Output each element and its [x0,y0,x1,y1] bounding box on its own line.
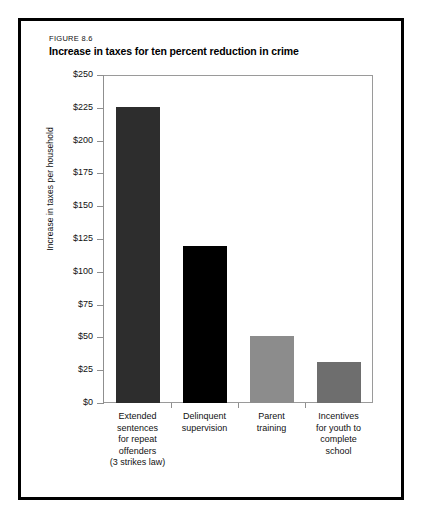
y-tick-label: $25 [78,364,93,375]
x-label-line: sentences [104,423,171,435]
y-tick-mark [97,108,103,109]
y-tick-mark [97,141,103,142]
x-axis-category-label: Incentivesfor youth tocompleteschool [305,411,372,457]
y-tick-mark [97,75,103,76]
x-label-line: Extended [104,411,171,423]
bar-slot [104,75,171,403]
x-axis-category-label: Extendedsentencesfor repeatoffenders(3 s… [104,411,171,469]
x-label-line: school [305,446,372,458]
x-tick-mark [305,403,306,408]
x-label-line: complete [305,434,372,446]
x-tick-mark [171,403,172,408]
x-axis-category-label: Parenttraining [238,411,305,434]
y-tick-mark [97,239,103,240]
y-tick-mark [97,206,103,207]
bar-slot [171,75,238,403]
y-tick-label: $225 [73,102,93,113]
y-tick-label: $125 [73,233,93,244]
x-label-line: Delinquent [171,411,238,423]
x-axis-labels: Extendedsentencesfor repeatoffenders(3 s… [104,411,372,497]
y-tick-label: $100 [73,266,93,277]
y-tick-mark [97,337,103,338]
bar[interactable] [183,246,227,403]
bars-layer [104,75,372,403]
bar-slot [238,75,305,403]
bar-slot [305,75,372,403]
x-label-line: for repeat [104,434,171,446]
y-tick-mark [97,272,103,273]
x-label-line: Parent [238,411,305,423]
y-tick-label: $0 [83,397,93,408]
x-label-line: (3 strikes law) [104,457,171,469]
y-tick-label: $200 [73,135,93,146]
y-tick-mark [97,403,103,404]
y-tick-mark [97,305,103,306]
bar-chart: $250$225$200$175$150$125$100$75$50$25$0 … [21,21,401,497]
y-tick-label: $50 [78,331,93,342]
bar[interactable] [317,362,361,403]
x-label-line: supervision [171,423,238,435]
y-tick-mark [97,173,103,174]
bar[interactable] [116,107,160,404]
y-tick-mark [97,370,103,371]
y-tick-label: $150 [73,200,93,211]
y-tick-label: $175 [73,167,93,178]
figure-frame: FIGURE 8.6 Increase in taxes for ten per… [18,18,404,500]
x-label-line: training [238,423,305,435]
y-tick-label: $250 [73,69,93,80]
x-label-line: offenders [104,446,171,458]
y-tick-label: $75 [78,299,93,310]
x-axis-category-label: Delinquentsupervision [171,411,238,434]
x-label-line: Incentives [305,411,372,423]
x-tick-mark [238,403,239,408]
y-axis-title: Increase in taxes per household [45,79,55,299]
bar[interactable] [250,336,294,403]
x-label-line: for youth to [305,423,372,435]
